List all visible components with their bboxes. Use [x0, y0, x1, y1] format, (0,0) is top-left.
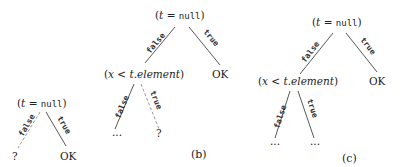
tree-b-inner-false-label: false: [114, 94, 131, 120]
tree-b-inner-left-leaf: ...: [112, 126, 122, 138]
tree-b-caption: (b): [191, 148, 207, 161]
tree-b-inner-node: (x < t.element): [104, 68, 184, 80]
tree-a: (t = null) false true ? OK (a): [12, 97, 77, 167]
tree-b-false-label: false: [145, 31, 167, 55]
tree-c-inner-true-label: true: [305, 98, 320, 119]
tree-a-root: (t = null): [17, 97, 67, 109]
tree-b-right-leaf: OK: [212, 68, 229, 80]
tree-b-root: (t = null): [155, 9, 205, 21]
tree-c-caption: (c): [342, 152, 357, 165]
tree-c-inner-false-label: false: [272, 104, 288, 130]
tree-a-left-leaf: ?: [12, 150, 18, 162]
tree-c-inner-node: (x < t.element): [258, 75, 338, 87]
tree-c-inner-left-leaf: ...: [270, 135, 280, 147]
tree-c-inner-right-leaf: ...: [310, 135, 320, 147]
tree-b-inner-right-leaf: ?: [156, 127, 162, 139]
tree-c-root: (t = null): [312, 16, 362, 28]
tree-b: (t = null) false true (x < t.element) OK…: [104, 9, 229, 161]
tree-c: (t = null) false true (x < t.element) OK…: [258, 16, 386, 165]
tree-c-true-label: true: [358, 36, 377, 57]
tree-c-right-leaf: OK: [369, 75, 386, 87]
decision-trees-figure: (t = null) false true ? OK (a) (t = null…: [0, 0, 404, 167]
tree-a-right-leaf: OK: [60, 150, 77, 162]
tree-a-false-label: false: [17, 112, 37, 138]
tree-b-true-label: true: [201, 28, 220, 49]
